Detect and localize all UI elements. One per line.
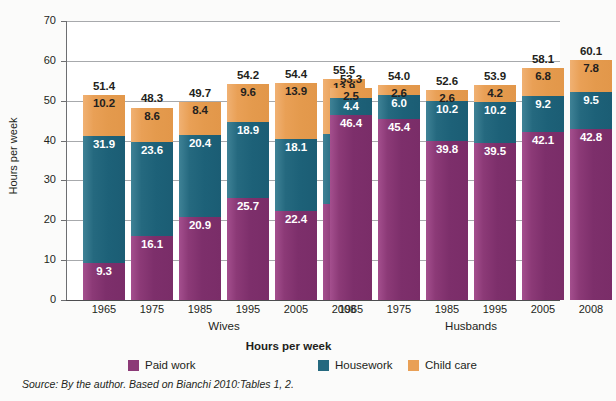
x-tick-label-wives-1975: 1975 bbox=[131, 303, 173, 315]
group-label-husbands: Husbands bbox=[330, 320, 612, 332]
bar-husbands-1965: 46.44.42.5 bbox=[330, 88, 372, 300]
segment-value-label: 2.5 bbox=[330, 90, 372, 102]
bar-total-label-wives-1995: 54.2 bbox=[223, 69, 273, 81]
segment-value-label: 46.4 bbox=[330, 117, 372, 129]
segment-paid-work-wives-1985: 20.9 bbox=[179, 217, 221, 300]
segment-value-label: 6.8 bbox=[522, 70, 564, 82]
segment-paid-work-wives-1975: 16.1 bbox=[131, 236, 173, 300]
bar-total-label-husbands-2008: 60.1 bbox=[566, 45, 616, 57]
legend-title: Hours per week bbox=[0, 340, 577, 352]
gridline-60 bbox=[67, 61, 560, 62]
segment-value-label: 10.2 bbox=[83, 97, 125, 109]
segment-value-label: 39.8 bbox=[426, 143, 468, 155]
bar-total-label-husbands-1995: 53.9 bbox=[470, 70, 520, 82]
bar-wives-2005: 22.418.113.9 bbox=[275, 83, 317, 300]
legend: Paid workHouseworkChild care bbox=[0, 358, 577, 374]
x-tick-label-wives-1985: 1985 bbox=[179, 303, 221, 315]
bar-total-label-husbands-1965: 53.3 bbox=[326, 73, 376, 85]
segment-value-label: 10.2 bbox=[426, 103, 468, 115]
legend-swatch-icon bbox=[408, 360, 419, 371]
bar-wives-1975: 16.123.68.6 bbox=[131, 108, 173, 301]
segment-value-label: 18.9 bbox=[227, 124, 269, 136]
segment-paid-work-wives-1995: 25.7 bbox=[227, 198, 269, 300]
bar-wives-1985: 20.920.48.4 bbox=[179, 102, 221, 300]
y-axis-line bbox=[66, 21, 67, 301]
segment-housework-husbands-2008: 9.5 bbox=[570, 92, 612, 130]
x-tick-label-wives-1965: 1965 bbox=[83, 303, 125, 315]
y-tick-label-50: 50 bbox=[30, 94, 56, 106]
bar-husbands-1985: 39.810.22.6 bbox=[426, 90, 468, 300]
source-note: Source: By the author. Based on Bianchi … bbox=[22, 378, 294, 390]
segment-value-label: 18.1 bbox=[275, 141, 317, 153]
segment-child-care-wives-1995: 9.6 bbox=[227, 84, 269, 122]
bar-husbands-1975: 45.46.02.6 bbox=[378, 85, 420, 300]
segment-paid-work-husbands-1965: 46.4 bbox=[330, 115, 372, 300]
legend-item-child-care[interactable]: Child care bbox=[408, 358, 477, 372]
legend-item-paid-work[interactable]: Paid work bbox=[128, 358, 196, 372]
legend-item-housework[interactable]: Housework bbox=[318, 358, 393, 372]
bar-total-label-husbands-1985: 52.6 bbox=[422, 75, 472, 87]
y-tick-mark-70 bbox=[61, 21, 67, 22]
segment-housework-wives-1975: 23.6 bbox=[131, 142, 173, 236]
segment-child-care-husbands-2008: 7.8 bbox=[570, 60, 612, 91]
segment-value-label: 6.0 bbox=[378, 97, 420, 109]
gridline-70 bbox=[67, 21, 560, 22]
bar-husbands-2008: 42.89.57.8 bbox=[570, 60, 612, 300]
segment-value-label: 7.8 bbox=[570, 62, 612, 74]
x-tick-label-husbands-1975: 1975 bbox=[378, 303, 420, 315]
segment-value-label: 4.2 bbox=[474, 87, 516, 99]
segment-value-label: 16.1 bbox=[131, 238, 173, 250]
segment-housework-wives-1965: 31.9 bbox=[83, 136, 125, 263]
legend-label: Paid work bbox=[145, 359, 196, 371]
y-tick-mark-10 bbox=[61, 260, 67, 261]
bar-total-label-wives-1975: 48.3 bbox=[127, 92, 177, 104]
segment-value-label: 9.3 bbox=[83, 265, 125, 277]
y-tick-label-40: 40 bbox=[30, 134, 56, 146]
bar-total-label-wives-1965: 51.4 bbox=[79, 80, 129, 92]
segment-paid-work-husbands-1985: 39.8 bbox=[426, 141, 468, 300]
x-tick-label-wives-2005: 2005 bbox=[275, 303, 317, 315]
y-tick-label-60: 60 bbox=[30, 54, 56, 66]
segment-value-label: 8.6 bbox=[131, 110, 173, 122]
segment-paid-work-husbands-1995: 39.5 bbox=[474, 143, 516, 300]
segment-paid-work-wives-1965: 9.3 bbox=[83, 263, 125, 300]
segment-value-label: 2.6 bbox=[378, 87, 420, 99]
segment-value-label: 20.9 bbox=[179, 219, 221, 231]
y-tick-mark-20 bbox=[61, 220, 67, 221]
group-label-wives: Wives bbox=[83, 320, 365, 332]
y-axis-title: Hours per week bbox=[7, 81, 19, 231]
segment-value-label: 45.4 bbox=[378, 121, 420, 133]
segment-child-care-wives-1965: 10.2 bbox=[83, 95, 125, 136]
y-tick-label-10: 10 bbox=[30, 253, 56, 265]
legend-swatch-icon bbox=[318, 360, 329, 371]
segment-value-label: 9.2 bbox=[522, 98, 564, 110]
bar-total-label-husbands-2005: 58.1 bbox=[518, 53, 568, 65]
x-axis-line bbox=[66, 300, 560, 301]
segment-value-label: 31.9 bbox=[83, 138, 125, 150]
segment-value-label: 25.7 bbox=[227, 200, 269, 212]
segment-value-label: 23.6 bbox=[131, 144, 173, 156]
segment-value-label: 13.9 bbox=[275, 85, 317, 97]
y-tick-label-70: 70 bbox=[30, 14, 56, 26]
segment-paid-work-husbands-2005: 42.1 bbox=[522, 132, 564, 300]
segment-housework-wives-2005: 18.1 bbox=[275, 139, 317, 211]
x-tick-label-husbands-2008: 2008 bbox=[570, 303, 612, 315]
segment-housework-husbands-2005: 9.2 bbox=[522, 96, 564, 133]
segment-housework-husbands-1985: 10.2 bbox=[426, 101, 468, 142]
segment-value-label: 9.5 bbox=[570, 94, 612, 106]
segment-housework-husbands-1995: 10.2 bbox=[474, 102, 516, 143]
legend-label: Child care bbox=[425, 359, 477, 371]
segment-child-care-husbands-2005: 6.8 bbox=[522, 68, 564, 95]
bar-wives-1995: 25.718.99.6 bbox=[227, 84, 269, 300]
y-tick-mark-40 bbox=[61, 141, 67, 142]
bar-wives-1965: 9.331.910.2 bbox=[83, 95, 125, 300]
legend-swatch-icon bbox=[128, 360, 139, 371]
segment-value-label: 39.5 bbox=[474, 145, 516, 157]
legend-label: Housework bbox=[335, 359, 393, 371]
y-tick-mark-60 bbox=[61, 61, 67, 62]
segment-child-care-husbands-1985: 2.6 bbox=[426, 90, 468, 100]
segment-value-label: 22.4 bbox=[275, 213, 317, 225]
x-tick-label-husbands-1985: 1985 bbox=[426, 303, 468, 315]
bar-husbands-1995: 39.510.24.2 bbox=[474, 85, 516, 300]
